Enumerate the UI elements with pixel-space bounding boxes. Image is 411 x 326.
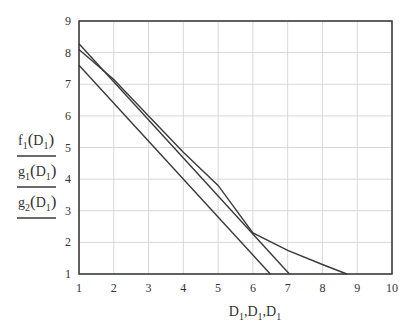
y-tick-label: 7 <box>65 77 71 91</box>
y-axis-legend-labels: f1(D1)g1(D1)g2(D1) <box>17 130 56 218</box>
x-tick-label: 2 <box>111 281 117 295</box>
y-tick-label: 8 <box>65 46 71 60</box>
y-legend-label: g2(D1) <box>18 192 56 213</box>
y-legend-entry: g1(D1) <box>17 161 56 187</box>
y-tick-labels: 123456789 <box>65 14 71 281</box>
y-tick-label: 3 <box>65 204 71 218</box>
y-legend-label: f1(D1) <box>18 130 54 151</box>
y-tick-label: 1 <box>65 267 71 281</box>
x-axis-label: D1,D1,D1 <box>229 304 281 322</box>
series-lines <box>79 44 347 274</box>
x-axis-label-text: D1,D1,D1 <box>229 304 281 322</box>
x-tick-label: 5 <box>215 281 221 295</box>
y-legend-entry: f1(D1) <box>17 130 56 156</box>
line-chart: 12345678910 123456789 D1,D1,D1 f1(D1)g1(… <box>0 0 411 326</box>
x-tick-label: 9 <box>354 281 360 295</box>
x-tick-label: 8 <box>319 281 325 295</box>
x-tick-label: 10 <box>386 281 398 295</box>
y-tick-label: 6 <box>65 109 71 123</box>
y-legend-entry: g2(D1) <box>17 192 56 218</box>
y-legend-label: g1(D1) <box>18 161 56 182</box>
x-tick-label: 6 <box>250 281 256 295</box>
y-tick-label: 5 <box>65 141 71 155</box>
x-tick-label: 7 <box>285 281 291 295</box>
x-tick-label: 1 <box>76 281 82 295</box>
series-line-1 <box>79 44 289 274</box>
y-tick-label: 9 <box>65 14 71 28</box>
y-tick-label: 2 <box>65 235 71 249</box>
x-tick-label: 4 <box>180 281 186 295</box>
series-line-0 <box>79 50 347 275</box>
x-tick-labels: 12345678910 <box>76 281 398 295</box>
x-tick-label: 3 <box>146 281 152 295</box>
y-tick-label: 4 <box>65 172 71 186</box>
